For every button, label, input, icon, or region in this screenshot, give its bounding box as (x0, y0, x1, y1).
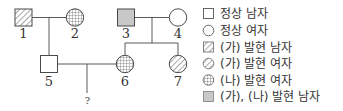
individual-5: 5 (41, 56, 58, 90)
legend-item-normal-female: 정상 여자 (203, 24, 268, 38)
circle-crosshatched-icon (66, 9, 83, 26)
individual-label-2: 2 (71, 26, 79, 41)
individual-3: 3 (118, 9, 135, 41)
legend-item-ga-female: (가) 발현 여자 (203, 57, 292, 71)
individual-7: 7 (169, 55, 186, 89)
legend-label: (가) 발현 남자 (220, 41, 292, 55)
legend-item-ga-na-male: (가), (나) 발현 남자 (204, 90, 320, 104)
square-hatched-icon (15, 9, 32, 26)
legend-label: (가) 발현 여자 (220, 57, 292, 71)
individual-label-4: 4 (174, 26, 182, 41)
circle-crosshatched-icon (116, 55, 133, 72)
legend-label: 정상 여자 (220, 24, 268, 38)
legend-item-ga-male: (가) 발현 남자 (204, 41, 293, 55)
square-grey-icon (118, 9, 135, 26)
legend: 정상 남자 정상 여자 (가) 발현 남자 (가) 발현 여자 (나) 발현 여… (203, 7, 320, 104)
circle-crosshatched-icon (203, 75, 214, 86)
individual-2: 2 (66, 9, 83, 41)
circle-empty-icon (203, 25, 214, 36)
pedigree-diagram: 1 2 3 4 5 6 7 ? 정상 남자 정상 여자 (0, 0, 343, 111)
circle-hatched-icon (203, 58, 214, 69)
square-empty-icon (41, 56, 58, 73)
square-grey-icon (204, 92, 214, 102)
individual-1: 1 (15, 9, 32, 41)
circle-empty-icon (169, 9, 186, 26)
legend-label: (나) 발현 여자 (220, 74, 292, 88)
legend-item-normal-male: 정상 남자 (204, 7, 268, 21)
individual-6: 6 (116, 55, 133, 89)
individual-label-5: 5 (45, 74, 53, 89)
individual-label-3: 3 (122, 26, 130, 41)
individual-label-6: 6 (121, 74, 129, 89)
square-hatched-icon (204, 42, 214, 52)
legend-label: (가), (나) 발현 남자 (220, 90, 320, 104)
individual-label-1: 1 (19, 26, 27, 41)
legend-label: 정상 남자 (220, 7, 268, 21)
unknown-child-label: ? (85, 95, 90, 106)
individual-label-7: 7 (174, 74, 182, 89)
legend-item-na-female: (나) 발현 여자 (203, 74, 292, 88)
circle-hatched-icon (169, 55, 186, 72)
square-empty-icon (204, 9, 214, 19)
individual-4: 4 (169, 9, 186, 41)
